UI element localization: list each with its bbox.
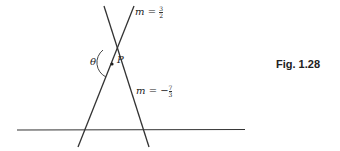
line2-slope-label: m = −73 — [136, 85, 172, 98]
theta-label: θ — [90, 56, 96, 67]
horizontal-line — [17, 130, 245, 131]
negative-slope-line — [104, 6, 149, 147]
figure-canvas — [0, 0, 340, 151]
angle-arc — [97, 50, 106, 77]
intersection-point — [110, 62, 113, 65]
figure-caption: Fig. 1.28 — [276, 58, 320, 70]
point-p-label: P — [117, 54, 124, 65]
line1-slope-label: m = 32 — [135, 6, 163, 19]
